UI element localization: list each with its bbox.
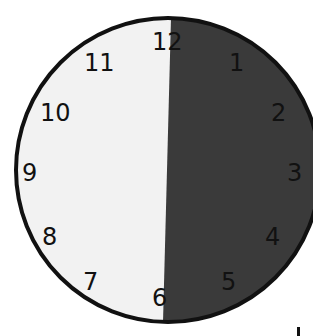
numeral-10: 10 (40, 99, 71, 127)
numeral-4: 4 (265, 223, 280, 251)
numeral-9: 9 (22, 159, 37, 187)
numeral-8: 8 (42, 223, 57, 251)
numeral-1: 1 (229, 49, 244, 77)
numeral-2: 2 (271, 99, 286, 127)
numeral-7: 7 (83, 268, 98, 296)
numeral-3: 3 (287, 159, 302, 187)
corner-mark (297, 327, 300, 336)
numeral-12: 12 (152, 28, 183, 56)
numeral-11: 11 (84, 49, 115, 77)
numeral-5: 5 (221, 268, 236, 296)
numeral-6: 6 (152, 284, 167, 312)
clock-diagram: 12 1 2 3 4 5 6 7 8 9 10 11 (0, 0, 313, 336)
